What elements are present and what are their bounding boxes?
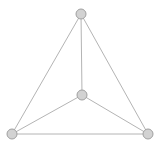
edge-top-center [81, 14, 82, 95]
node-bottom-left [7, 129, 17, 139]
edges-group [12, 14, 148, 134]
edge-center-bottom-left [12, 95, 82, 134]
graph-diagram [0, 0, 160, 148]
node-center [77, 90, 87, 100]
edge-center-bottom-right [82, 95, 148, 134]
edge-top-bottom-left [12, 14, 81, 134]
node-bottom-right [143, 129, 153, 139]
edge-top-bottom-right [81, 14, 148, 134]
node-top [76, 9, 86, 19]
nodes-group [7, 9, 153, 139]
